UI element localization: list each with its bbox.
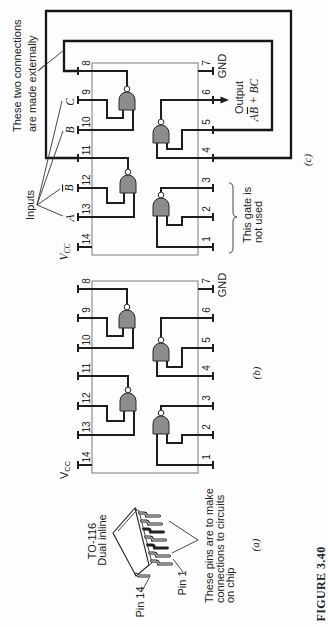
pin-label: 1: [201, 454, 212, 460]
output-expr-b-bar: B: [248, 107, 260, 114]
gnd-label: GND: [216, 273, 228, 298]
pin-label: 14: [81, 451, 92, 463]
pin-label: 10: [81, 334, 92, 346]
input-label-a: A: [64, 214, 76, 223]
pin-label: 9: [81, 307, 92, 313]
nand-gate-icon: [120, 175, 136, 193]
output-expression: AB + BC: [248, 79, 260, 123]
pin-label: 8: [81, 60, 92, 66]
vcc-subscript: CC: [63, 460, 72, 471]
output-label: Output: [233, 81, 245, 114]
package-type: Dual inline: [96, 514, 108, 565]
figure-caption: FIGURE 3.40: [314, 546, 328, 621]
pin-label: 14: [81, 233, 92, 245]
nand-gate-icon: [153, 198, 169, 216]
pin-label: 3: [201, 395, 212, 401]
pin-label: 13: [81, 421, 92, 433]
inverter-bubble-icon: [124, 304, 130, 310]
pin-label: 8: [81, 278, 92, 284]
input-label-b-bar: B: [63, 184, 75, 191]
inverter-bubble-icon: [124, 86, 130, 92]
nand-gate-icon: [153, 125, 169, 143]
inverter-bubble-icon: [158, 337, 164, 343]
gnd-label: GND: [216, 54, 228, 79]
figure-canvas: 8 9 10 11 12 13 14 7 6 5 4 3 2 1 These t…: [0, 0, 328, 627]
pin-label: 12: [81, 174, 92, 186]
inverter-bubble-icon: [125, 169, 131, 175]
external-note-line-2: are made externally: [26, 35, 38, 132]
pin-label: 1: [201, 236, 212, 242]
pin-label: 13: [81, 203, 92, 215]
input-label-b: B: [64, 126, 76, 133]
output-expr-rest: + BC: [248, 79, 260, 108]
pin1-label: Pin 1: [176, 570, 188, 595]
inverter-bubble-icon: [158, 192, 164, 198]
pin-label: 12: [81, 392, 92, 404]
pin14-label: Pin 14: [134, 586, 146, 617]
nand-gate-icon: [153, 416, 169, 434]
nand-gate-icon: [120, 393, 136, 411]
inputs-label: Inputs: [24, 190, 36, 220]
pins-note-line-3: on chip: [224, 568, 236, 603]
inverter-bubble-icon: [158, 410, 164, 416]
pin-label: 3: [201, 177, 212, 183]
panel-label-a: (a): [249, 538, 262, 551]
input-label-c: C: [64, 98, 76, 106]
pin-label: 7: [201, 278, 212, 284]
pin-label: 6: [201, 89, 212, 95]
pin-label: 7: [201, 60, 212, 66]
pin-label: 4: [201, 147, 212, 153]
vcc-subscript: CC: [63, 242, 72, 253]
pin-label: 5: [201, 119, 212, 125]
inverter-bubble-icon: [158, 119, 164, 125]
pin-label: 2: [201, 424, 212, 430]
pin-label: 11: [81, 144, 92, 155]
pin-label: 4: [201, 365, 212, 371]
pin-label: 6: [201, 307, 212, 313]
nand-gate-icon: [153, 343, 169, 361]
external-note-line-1: These two connections: [11, 19, 23, 132]
inverter-bubble-icon: [125, 387, 131, 393]
unused-note-line-2: not used: [252, 201, 264, 243]
pin-label: 11: [81, 362, 92, 373]
pin-label: 2: [201, 206, 212, 212]
pin-label: 9: [81, 89, 92, 95]
pin-label: 5: [201, 337, 212, 343]
panel-label-c: (c): [301, 154, 314, 167]
nand-gate-icon: [119, 92, 135, 110]
nand-gate-icon: [119, 310, 135, 328]
panel-label-b: (b): [250, 366, 263, 379]
pin-label: 10: [81, 116, 92, 128]
